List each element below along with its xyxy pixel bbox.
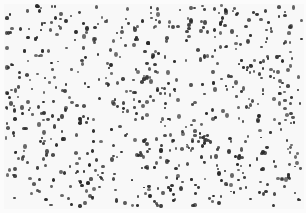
particle	[98, 97, 101, 100]
particle	[262, 88, 265, 91]
particle	[234, 42, 238, 46]
particle	[49, 204, 52, 207]
particle	[144, 192, 147, 195]
particle	[270, 30, 273, 33]
particle	[41, 49, 45, 52]
particle	[203, 161, 206, 164]
particle	[101, 172, 103, 174]
particle	[149, 79, 153, 84]
particle	[48, 81, 50, 83]
particle	[64, 19, 68, 23]
particle	[126, 133, 128, 135]
particle	[217, 168, 220, 170]
particle	[280, 177, 284, 181]
particle	[44, 77, 47, 79]
particle	[234, 80, 238, 85]
particle	[85, 121, 88, 124]
particle	[28, 109, 30, 112]
particle	[206, 134, 209, 136]
particle	[141, 167, 143, 169]
particle	[237, 106, 239, 109]
particle	[51, 68, 55, 71]
particle-image	[0, 0, 306, 213]
particle	[159, 92, 162, 94]
particle	[197, 140, 200, 143]
particle	[148, 194, 151, 198]
particle	[165, 36, 169, 39]
particle	[247, 135, 249, 138]
particle	[230, 29, 234, 34]
particle	[203, 135, 206, 137]
particle	[276, 70, 280, 75]
particle	[193, 101, 197, 105]
particle	[288, 163, 291, 166]
particle	[249, 71, 251, 74]
particle	[78, 11, 81, 14]
particle	[13, 167, 17, 171]
particle	[175, 147, 178, 150]
particle	[84, 82, 86, 85]
particle	[50, 21, 54, 24]
particle	[42, 119, 45, 121]
particle	[127, 22, 130, 25]
particle	[172, 193, 175, 196]
particle	[36, 189, 38, 192]
particle	[181, 132, 185, 136]
particle	[70, 203, 72, 206]
particle	[277, 5, 281, 9]
particle	[146, 167, 149, 170]
particle	[43, 91, 45, 93]
particle	[217, 201, 221, 205]
particle	[132, 79, 134, 82]
particle	[122, 111, 125, 113]
particle	[201, 5, 204, 7]
particle	[17, 85, 21, 89]
particle	[253, 59, 256, 62]
particle	[217, 171, 221, 176]
particle	[218, 12, 220, 14]
particle	[249, 164, 252, 167]
particle	[203, 20, 207, 24]
particle	[120, 37, 122, 39]
particle	[283, 42, 285, 44]
particle	[95, 5, 98, 9]
particle	[17, 157, 20, 160]
particle	[191, 140, 194, 143]
particle	[120, 151, 123, 153]
particle	[19, 27, 22, 31]
particle	[152, 99, 155, 102]
particle	[161, 117, 165, 121]
particle	[65, 83, 67, 85]
particle	[10, 89, 13, 91]
particle	[164, 107, 166, 109]
particle	[185, 59, 187, 61]
particle	[260, 77, 263, 80]
particle	[300, 19, 303, 22]
particle	[41, 137, 43, 140]
particle	[273, 70, 276, 73]
particle	[85, 189, 89, 193]
particle	[158, 20, 162, 24]
particle	[125, 18, 127, 20]
particle	[265, 29, 268, 31]
particle	[286, 84, 290, 88]
particle	[116, 81, 119, 84]
particle	[125, 90, 127, 93]
particle	[82, 22, 85, 25]
particle	[97, 23, 100, 25]
particle	[242, 120, 244, 122]
particle	[236, 12, 239, 15]
particle	[245, 186, 247, 189]
particle	[240, 165, 242, 168]
particle	[76, 170, 79, 173]
particle	[280, 128, 283, 131]
particle	[248, 107, 250, 109]
particle	[132, 43, 136, 48]
particle	[106, 62, 108, 65]
particle	[116, 156, 118, 158]
particle	[249, 198, 252, 200]
particle	[281, 82, 283, 84]
particle	[70, 15, 72, 17]
particle	[80, 59, 84, 62]
particle	[297, 89, 299, 91]
